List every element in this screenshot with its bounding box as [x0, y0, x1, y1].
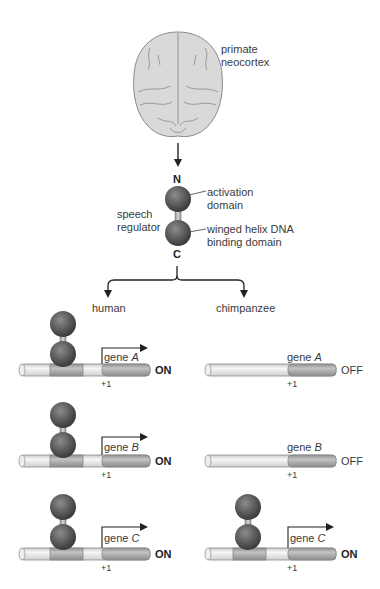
- species-label-human: human: [92, 302, 126, 315]
- n-terminus-label: N: [173, 173, 181, 186]
- regulator-name-line1: speech: [117, 208, 152, 221]
- human-gene-b-state: ON: [155, 455, 172, 468]
- chimp-gene-a-state: OFF: [341, 364, 363, 377]
- chimp-gene-c-dna: [205, 494, 336, 560]
- binding-domain-label-line1: winged helix DNA: [207, 223, 294, 236]
- human-gene-b-label: gene B: [104, 441, 139, 454]
- species-label-chimpanzee: chimpanzee: [216, 302, 275, 315]
- human-gene-a-tss: +1: [101, 378, 111, 391]
- gene-name: B: [132, 441, 139, 453]
- gene-prefix: gene: [104, 441, 132, 453]
- human-gene-b-tss: +1: [101, 469, 111, 482]
- gene-prefix: gene: [287, 441, 315, 453]
- gene-prefix: gene: [104, 532, 132, 544]
- gene-prefix: gene: [287, 351, 315, 363]
- chimp-gene-c-tss: +1: [287, 562, 297, 575]
- gene-prefix: gene: [290, 532, 318, 544]
- chimp-gene-b-label: gene B: [287, 441, 322, 454]
- brain-label-line2: neocortex: [221, 56, 269, 69]
- chimp-gene-a-dna: [205, 364, 336, 376]
- chimp-gene-c-label: gene C: [290, 532, 325, 545]
- binding-domain-label-line2: binding domain: [207, 236, 282, 249]
- c-terminus-label: C: [173, 248, 181, 261]
- gene-name: C: [132, 532, 140, 544]
- brain-illustration: [134, 32, 223, 137]
- chimp-gene-a-tss: +1: [287, 378, 297, 391]
- human-gene-a-label: gene A: [104, 351, 139, 364]
- regulator-name-line2: regulator: [117, 221, 160, 234]
- species-branch-arrows: [108, 266, 244, 296]
- activation-domain-label-line1: activation: [207, 186, 253, 199]
- brain-label-line1: primate: [221, 43, 258, 56]
- human-gene-a-state: ON: [155, 364, 172, 377]
- human-gene-c-state: ON: [155, 548, 172, 561]
- activation-domain-label-line2: domain: [207, 199, 243, 212]
- chimp-gene-b-tss: +1: [287, 469, 297, 482]
- diagram-canvas: [0, 0, 380, 589]
- gene-prefix: gene: [104, 351, 132, 363]
- human-gene-b-dna: [19, 402, 150, 467]
- speech-regulator-protein: [165, 186, 206, 246]
- gene-name: A: [315, 351, 322, 363]
- gene-name: C: [318, 532, 326, 544]
- gene-name: B: [315, 441, 322, 453]
- human-gene-c-dna: [19, 494, 150, 560]
- human-gene-a-dna: [19, 311, 150, 376]
- human-gene-c-label: gene C: [104, 532, 139, 545]
- chimp-gene-b-dna: [205, 455, 336, 467]
- chimp-gene-b-state: OFF: [341, 455, 363, 468]
- gene-name: A: [132, 351, 139, 363]
- chimp-gene-a-label: gene A: [287, 351, 322, 364]
- chimp-gene-c-state: ON: [341, 548, 358, 561]
- human-gene-c-tss: +1: [101, 562, 111, 575]
